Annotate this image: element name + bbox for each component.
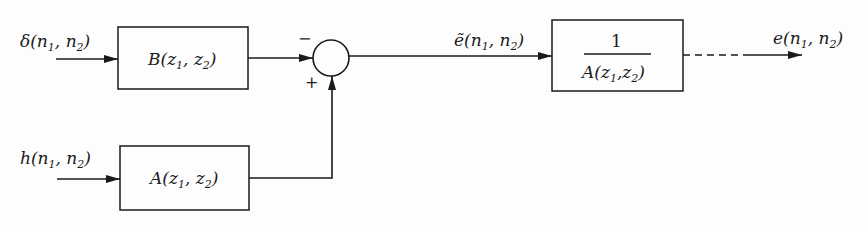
block-A-label: A(z1, z2) <box>148 168 218 191</box>
minus-sign: − <box>298 29 311 48</box>
arrow-A-to-sum <box>249 76 332 178</box>
input-label-h: h(n1, n2) <box>20 148 91 171</box>
signal-label-e: e(n1, n2) <box>773 28 843 51</box>
block-inverse-A-numerator: 1 <box>611 31 622 51</box>
summing-junction <box>313 40 349 76</box>
plus-sign: + <box>305 73 318 92</box>
block-diagram: δ(n1, n2) B(z1, z2) − + h(n1, n2) A(z1, … <box>0 0 866 226</box>
input-label-delta: δ(n1, n2) <box>20 31 90 54</box>
block-inverse-A-denominator: A(z1,z2) <box>580 62 645 85</box>
diagram-svg: δ(n1, n2) B(z1, z2) − + h(n1, n2) A(z1, … <box>0 0 866 226</box>
block-B-label: B(z1, z2) <box>147 49 217 72</box>
signal-label-e-tilde: ẽ(n1, n2) <box>454 30 524 53</box>
